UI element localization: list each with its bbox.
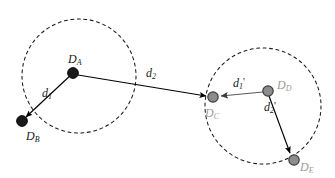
right-cluster xyxy=(205,48,321,164)
node-dc-label: DC xyxy=(205,106,219,121)
edge-dd-to-dc xyxy=(221,92,263,96)
edge-dd-to-de-distance-label: d2' xyxy=(264,99,276,115)
edge-da-to-db-distance-label: d1 xyxy=(42,86,52,101)
node-dc xyxy=(208,92,218,102)
node-da xyxy=(68,68,79,79)
node-dd xyxy=(263,86,273,96)
node-dd-label: DD xyxy=(277,78,291,93)
node-db-label: DB xyxy=(26,129,40,144)
node-de-label: DE xyxy=(300,160,314,175)
left-cluster xyxy=(22,19,136,133)
node-de xyxy=(289,155,299,165)
node-db xyxy=(17,116,28,127)
node-layer xyxy=(17,68,300,166)
node-da-label: DA xyxy=(68,52,82,67)
edge-dd-to-dc-distance-label: d1' xyxy=(233,75,245,91)
cluster-distance-diagram: d1d2d1'd2'DADBDCDDDE xyxy=(0,0,335,178)
edge-layer xyxy=(26,73,290,153)
edge-da-to-dc xyxy=(78,75,206,96)
edge-da-to-dc-distance-label: d2 xyxy=(146,66,156,81)
